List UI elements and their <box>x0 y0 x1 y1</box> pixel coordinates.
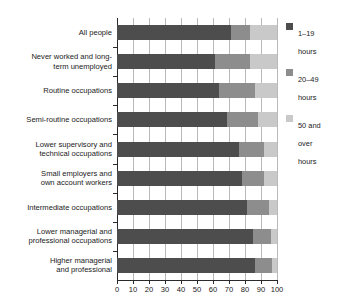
y-axis-label-8: Lower managerial andprofessional occupat… <box>0 227 112 245</box>
x-axis-tick-label-80: 80 <box>241 285 249 294</box>
gridline-100 <box>277 18 278 280</box>
y-axis-label-line: Semi-routine occupations <box>0 115 112 124</box>
bar-segment-series-1 <box>117 112 227 127</box>
bar-segment-series-2 <box>242 171 264 186</box>
y-axis-label-line: Lower managerial and <box>0 227 112 236</box>
x-axis-tick-30 <box>165 280 166 284</box>
bar-segment-series-2 <box>215 54 250 69</box>
bar-segment-series-1 <box>117 83 219 98</box>
y-axis-label-7: Intermediate occupations <box>0 203 112 212</box>
y-axis-label-line: and professional <box>0 265 112 274</box>
x-axis-tick-label-90: 90 <box>257 285 265 294</box>
x-axis-tick-label-0: 0 <box>115 285 119 294</box>
bar-segment-series-3 <box>250 54 277 69</box>
bar-row <box>117 258 277 273</box>
bar-segment-series-3 <box>269 200 277 215</box>
legend-item-2[interactable]: 20–49 hours <box>286 68 344 104</box>
x-axis-tick-label-40: 40 <box>177 285 185 294</box>
x-axis-tick-label-100: 100 <box>271 285 284 294</box>
bar-row <box>117 142 277 157</box>
bar-segment-series-3 <box>255 83 277 98</box>
x-axis-tick-label-30: 30 <box>161 285 169 294</box>
legend-swatch-icon <box>286 23 293 30</box>
y-axis-label-1: All people <box>0 28 112 37</box>
legend: 1–19 hours20–49 hours50 and over hours <box>286 22 344 178</box>
x-axis-tick-label-50: 50 <box>193 285 201 294</box>
x-axis-tick-90 <box>261 280 262 284</box>
y-axis-label-line: All people <box>0 28 112 37</box>
legend-item-3[interactable]: 50 and over hours <box>286 114 344 168</box>
x-axis-tick-label-20: 20 <box>145 285 153 294</box>
x-axis-tick-10 <box>133 280 134 284</box>
bar-segment-series-2 <box>239 142 265 157</box>
x-axis-tick-label-70: 70 <box>225 285 233 294</box>
y-axis-label-line: Higher managerial <box>0 256 112 265</box>
y-axis-label-5: Lower supervisory andtechnical occupatio… <box>0 140 112 158</box>
y-axis-label-line: term unemployed <box>0 62 112 71</box>
bar-segment-series-2 <box>231 25 250 40</box>
legend-label: 50 and over hours <box>298 121 321 166</box>
legend-label: 20–49 hours <box>298 75 319 102</box>
stacked-bar-chart: All peopleNever worked and long-term une… <box>0 0 344 308</box>
bar-row <box>117 229 277 244</box>
bar-segment-series-3 <box>264 171 277 186</box>
y-axis-label-line: Routine occupations <box>0 86 112 95</box>
bar-segment-series-3 <box>258 112 277 127</box>
y-axis-label-4: Semi-routine occupations <box>0 115 112 124</box>
bar-rows <box>117 18 277 280</box>
bar-segment-series-3 <box>250 25 277 40</box>
x-axis-tick-100 <box>277 280 278 284</box>
bar-row <box>117 112 277 127</box>
y-axis-label-line: Intermediate occupations <box>0 203 112 212</box>
bar-row <box>117 25 277 40</box>
bar-segment-series-1 <box>117 54 215 69</box>
bar-segment-series-2 <box>227 112 257 127</box>
bar-row <box>117 200 277 215</box>
x-axis-ticks <box>117 280 278 284</box>
legend-swatch-icon <box>286 69 293 76</box>
y-axis-label-line: Small employers and <box>0 169 112 178</box>
y-axis-label-2: Never worked and long-term unemployed <box>0 52 112 70</box>
legend-item-1[interactable]: 1–19 hours <box>286 22 344 58</box>
x-axis-tick-0 <box>117 280 118 284</box>
y-axis-label-9: Higher managerialand professional <box>0 256 112 274</box>
bar-segment-series-1 <box>117 200 247 215</box>
x-axis-tick-50 <box>197 280 198 284</box>
bar-segment-series-2 <box>219 83 254 98</box>
bar-row <box>117 171 277 186</box>
y-axis-category-labels: All peopleNever worked and long-term une… <box>0 18 112 280</box>
y-axis-label-line: technical occupations <box>0 149 112 158</box>
bar-segment-series-1 <box>117 171 242 186</box>
legend-label: 1–19 hours <box>298 29 317 56</box>
x-axis-tick-70 <box>229 280 230 284</box>
bar-row <box>117 54 277 69</box>
plot-area <box>117 18 277 280</box>
bar-segment-series-3 <box>264 142 277 157</box>
bar-segment-series-1 <box>117 229 253 244</box>
x-axis-tick-label-60: 60 <box>209 285 217 294</box>
bar-row <box>117 83 277 98</box>
x-axis-tick-40 <box>181 280 182 284</box>
y-axis-label-line: Never worked and long- <box>0 52 112 61</box>
bar-segment-series-3 <box>272 258 277 273</box>
bar-segment-series-2 <box>247 200 269 215</box>
y-axis-label-line: own account workers <box>0 178 112 187</box>
bar-segment-series-2 <box>253 229 271 244</box>
bar-segment-series-1 <box>117 142 239 157</box>
x-axis-tick-label-10: 10 <box>129 285 137 294</box>
y-axis-label-line: Lower supervisory and <box>0 140 112 149</box>
x-axis-tick-60 <box>213 280 214 284</box>
bar-segment-series-1 <box>117 258 255 273</box>
x-axis-tick-labels: 0102030405060708090100 <box>0 285 344 297</box>
y-axis-label-line: professional occupations <box>0 236 112 245</box>
x-axis-tick-80 <box>245 280 246 284</box>
bar-segment-series-2 <box>255 258 273 273</box>
bar-segment-series-1 <box>117 25 231 40</box>
y-axis-label-3: Routine occupations <box>0 86 112 95</box>
bar-segment-series-3 <box>271 229 277 244</box>
y-axis-label-6: Small employers andown account workers <box>0 169 112 187</box>
x-axis-tick-20 <box>149 280 150 284</box>
legend-swatch-icon <box>286 115 293 122</box>
